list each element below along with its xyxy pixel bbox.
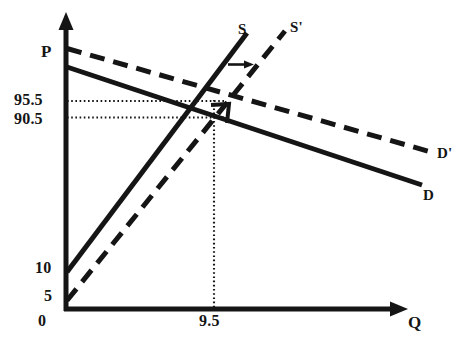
x-axis-label: Q — [408, 314, 421, 331]
origin-label: 0 — [38, 313, 46, 329]
demand-curve — [67, 67, 422, 185]
x-tick-label-9-5: 9.5 — [199, 313, 220, 329]
demand-shifted-curve-label: D' — [437, 146, 452, 161]
x-axis-arrowhead — [390, 302, 408, 317]
supply-demand-figure: P Q 0 95.5 90.5 10 5 9.5 S S' D D' — [0, 0, 474, 350]
supply-curve — [67, 33, 247, 272]
y-tick-label-10: 10 — [35, 260, 51, 276]
y-tick-label-95-5: 95.5 — [14, 92, 43, 108]
y-axis-arrowhead — [59, 12, 74, 30]
y-tick-label-5: 5 — [44, 288, 52, 304]
chart-canvas — [0, 0, 474, 350]
demand-curve-label: D — [423, 188, 434, 203]
supply-shifted-curve — [67, 31, 285, 301]
y-tick-label-90-5: 90.5 — [14, 111, 43, 127]
supply-curves-group — [67, 31, 285, 301]
supply-shifted-curve-label: S' — [290, 20, 303, 35]
supply-curve-label: S — [238, 22, 247, 37]
y-axis-label: P — [41, 43, 52, 60]
